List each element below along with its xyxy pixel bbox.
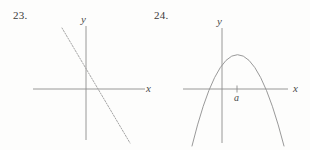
graph-24-axes xyxy=(183,28,288,143)
figure-sheet: 23. y x 24. y x a xyxy=(0,0,310,150)
graph-24-parabola-curve xyxy=(192,55,284,147)
graph-24 xyxy=(0,0,310,150)
